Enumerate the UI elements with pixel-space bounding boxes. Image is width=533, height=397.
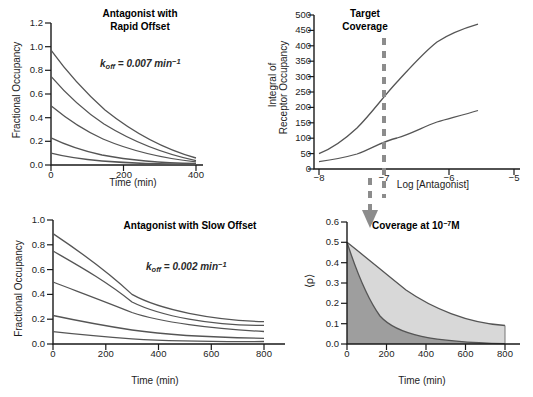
panel-b-xtick-marks <box>319 169 514 175</box>
panel-a-plot <box>0 0 265 198</box>
panel-a-ytick-marks <box>45 23 51 165</box>
panel-slow-offset: Antagonist with Slow Offset koff = 0.002… <box>0 198 292 397</box>
panel-d-plot <box>292 198 533 397</box>
panel-c-ytick-marks <box>47 220 53 344</box>
panel-b-ytick-marks <box>308 15 314 169</box>
panel-b-plot <box>265 0 533 198</box>
figure-root: Antagonist with Rapid Offset koff = 0.00… <box>0 0 533 397</box>
panel-rapid-offset: Antagonist with Rapid Offset koff = 0.00… <box>0 0 265 198</box>
panel-a-curves <box>51 50 196 164</box>
panel-d-xtick-marks <box>347 344 505 350</box>
panel-a-axes <box>51 23 203 165</box>
panel-c-xtick-marks <box>53 344 264 350</box>
panel-c-plot <box>0 198 292 397</box>
panel-b-axes <box>314 15 520 169</box>
panel-c-curves <box>53 234 264 342</box>
panel-integral-coverage: Target Coverage Integral of Receptor Occ… <box>265 0 533 198</box>
panel-coverage-1e-7: Coverage at 10−7M ⟨ρ⟩ Time (min) 0.0 0.1… <box>292 198 533 397</box>
panel-a-xtick-marks <box>51 165 196 171</box>
panel-b-curves <box>319 24 478 161</box>
panel-d-ytick-marks <box>341 222 347 344</box>
